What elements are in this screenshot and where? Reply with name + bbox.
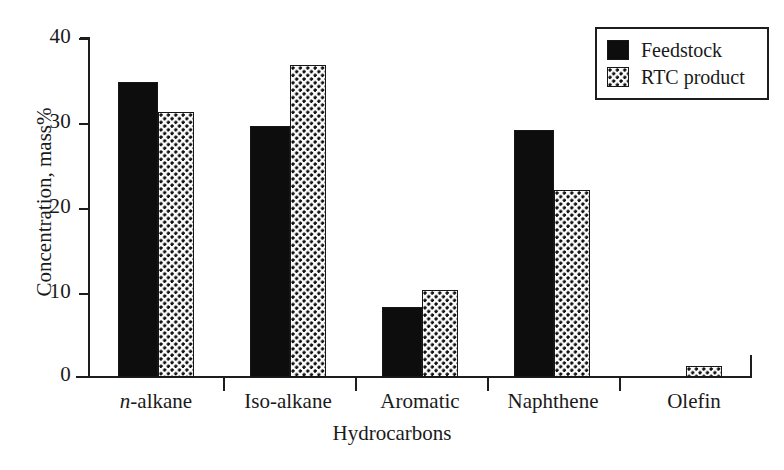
legend-item-feedstock: Feedstock [607,36,757,63]
x-label-aromatic: Aromatic [360,389,480,413]
y-tick-mark [79,293,89,295]
x-label-text: -alkane [130,389,192,413]
x-label-olefin: Olefin [638,389,750,413]
y-axis-title: Concentration, mass% [32,72,56,332]
bar-chart: 40 30 20 10 0 n-alkane Iso-alkane Aromat… [0,0,784,470]
y-tick-mark [79,123,89,125]
x-tick-2 [355,378,357,391]
x-axis-title: Hydrocarbons [0,421,784,445]
bar-rtc-product-olefin [686,366,722,377]
x-label-text: Naphthene [508,389,599,413]
legend-swatch-solid-icon [607,40,629,60]
y-tick-label: 40 [25,26,71,47]
x-label-naphthene: Naphthene [489,389,617,413]
bar-rtc-product-iso-alkane [290,65,326,377]
x-label-italic-prefix: n [120,389,131,413]
legend: Feedstock RTC product [595,27,769,100]
y-tick-0: 0 [0,376,89,378]
x-label-text: Olefin [667,389,721,413]
x-tick-4 [619,378,621,391]
x-label-text: Iso-alkane [244,389,331,413]
legend-item-rtc-product: RTC product [607,63,757,90]
y-tick-mark [79,38,89,40]
y-tick-40: 40 [0,38,89,40]
bar-feedstock-iso-alkane [250,126,290,377]
bar-feedstock-n-alkane [118,82,158,377]
bar-feedstock-naphthene [514,130,554,377]
legend-label: Feedstock [641,39,722,61]
bar-rtc-product-naphthene [554,190,590,377]
legend-swatch-dotted-icon [607,67,629,87]
x-label-iso-alkane: Iso-alkane [226,389,350,413]
legend-label: RTC product [641,66,745,88]
bar-rtc-product-aromatic [422,290,458,377]
y-tick-mark [79,208,89,210]
x-tick-1 [223,378,225,391]
y-tick-label: 0 [25,364,71,385]
bar-rtc-product-n-alkane [158,112,194,377]
bar-feedstock-aromatic [382,307,422,377]
x-axis-right-cap [750,355,752,378]
x-label-n-alkane: n-alkane [96,389,216,413]
x-label-text: Aromatic [380,389,459,413]
